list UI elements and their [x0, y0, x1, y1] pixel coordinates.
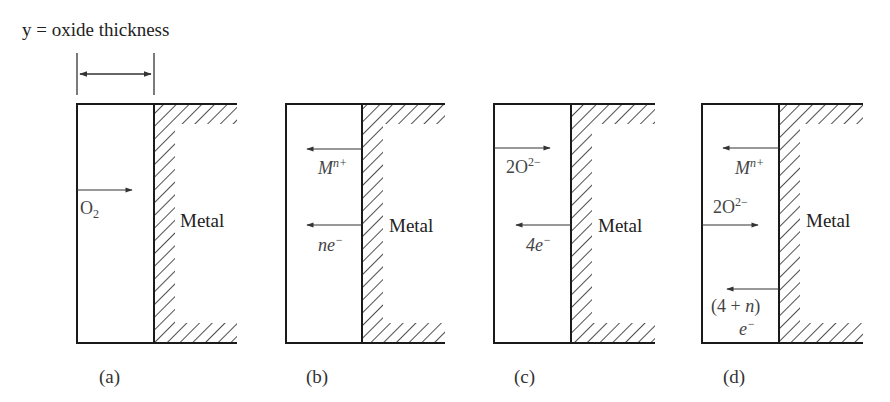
- label-main: 2O: [506, 157, 528, 177]
- species-label-o2: O2: [80, 199, 99, 217]
- label-sup: n+: [333, 156, 347, 170]
- diagram-title: y = oxide thickness: [22, 20, 169, 39]
- metal-label-b: Metal: [389, 216, 433, 235]
- species-label-electron: e−: [739, 320, 755, 338]
- metal-label-d: Metal: [806, 211, 850, 230]
- metal-label-c: Metal: [598, 216, 642, 235]
- caption-c: (c): [514, 367, 535, 386]
- label-main: O: [80, 198, 93, 218]
- label-main: 2O: [713, 197, 735, 217]
- label-sub: 2: [93, 207, 99, 221]
- label-var: n: [745, 296, 754, 316]
- label-sup: −: [543, 233, 551, 247]
- species-label-electron-count: (4 + n): [711, 297, 760, 315]
- oxidation-diagram: [0, 0, 890, 402]
- metal-label-a: Metal: [180, 211, 224, 230]
- label-close: ): [754, 296, 760, 316]
- label-main: M: [735, 158, 750, 178]
- label-sup: n+: [750, 156, 764, 170]
- species-label-electron: ne−: [318, 236, 343, 254]
- species-label-cation: Mn+: [318, 159, 347, 177]
- label-sup: 2−: [735, 195, 748, 209]
- label-sup: 2−: [528, 155, 541, 169]
- label-main: M: [318, 158, 333, 178]
- label-main: e: [739, 319, 747, 339]
- label-main: (4 +: [711, 296, 745, 316]
- species-label-cation: Mn+: [735, 159, 764, 177]
- thickness-dimension: [77, 53, 154, 95]
- label-sup: −: [335, 233, 343, 247]
- species-label-anion: 2O2−: [506, 158, 541, 176]
- species-label-electron: 4e−: [526, 236, 551, 254]
- caption-b: (b): [306, 367, 328, 386]
- caption-a: (a): [99, 367, 120, 386]
- label-sup: −: [747, 317, 755, 331]
- caption-d: (d): [723, 367, 745, 386]
- label-main: ne: [318, 235, 335, 255]
- species-label-anion: 2O2−: [713, 198, 748, 216]
- label-main: 4e: [526, 235, 543, 255]
